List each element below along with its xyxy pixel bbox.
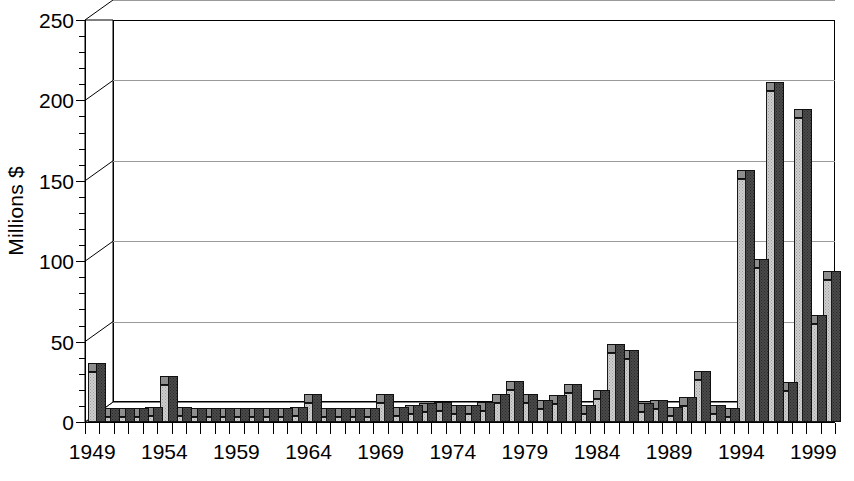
bar-column <box>794 109 803 422</box>
x-tick-mark <box>128 423 129 434</box>
bar-side-face <box>745 170 755 422</box>
bar-side-face <box>629 350 639 422</box>
bar-side-face <box>283 408 293 422</box>
bar-side-face <box>543 400 553 422</box>
bar-side-face <box>312 394 322 422</box>
x-tick-label: 1959 <box>213 440 260 464</box>
x-tick-mark <box>273 423 274 434</box>
bar-side-face <box>442 402 452 422</box>
x-tick-mark <box>330 423 331 434</box>
x-tick-mark <box>157 423 158 434</box>
x-tick-mark <box>114 423 115 434</box>
bar-side-face <box>759 259 769 422</box>
x-tick-mark <box>518 423 519 434</box>
bar-side-face <box>817 315 827 422</box>
x-tick-label: 1954 <box>141 440 188 464</box>
x-tick-mark <box>85 423 86 434</box>
bar-column <box>737 170 746 422</box>
bar-top-face <box>564 384 573 393</box>
x-tick-mark <box>200 423 201 434</box>
x-tick-mark <box>691 423 692 434</box>
x-tick-mark <box>705 423 706 434</box>
bar-top-face <box>737 170 746 179</box>
x-tick-mark <box>561 423 562 434</box>
x-tick-mark <box>99 423 100 434</box>
bar-side-face <box>802 109 812 422</box>
bar-side-face <box>125 408 135 422</box>
x-tick-mark <box>258 423 259 434</box>
bar-side-face <box>644 403 654 422</box>
bar-side-face <box>182 407 192 422</box>
bar-front-face <box>794 118 803 422</box>
bar-side-face <box>153 407 163 422</box>
bar-side-face <box>298 407 308 422</box>
x-tick-label: 1989 <box>646 440 693 464</box>
x-tick-mark <box>489 423 490 434</box>
bar-side-face <box>197 408 207 422</box>
x-tick-mark <box>720 423 721 434</box>
x-tick-mark <box>835 423 836 434</box>
x-tick-mark <box>532 423 533 434</box>
x-tick-mark <box>287 423 288 434</box>
x-tick-mark <box>345 423 346 434</box>
bar-side-face <box>110 408 120 422</box>
bar-side-face <box>600 390 610 422</box>
bar-side-face <box>615 344 625 422</box>
bar-side-face <box>139 408 149 422</box>
x-tick-mark <box>388 423 389 434</box>
x-tick-mark <box>373 423 374 434</box>
bar-side-face <box>831 271 841 422</box>
x-tick-mark <box>143 423 144 434</box>
bar-side-face <box>225 408 235 422</box>
bar-side-face <box>456 405 466 422</box>
bar-top-face <box>823 271 832 280</box>
x-tick-mark <box>821 423 822 434</box>
x-tick-mark <box>547 423 548 434</box>
bar-side-face <box>730 408 740 422</box>
bar-side-face <box>701 371 711 422</box>
x-tick-label: 1949 <box>69 440 116 464</box>
bar-side-face <box>471 405 481 422</box>
bar-side-face <box>413 405 423 422</box>
bar-top-face <box>376 394 385 403</box>
bar-side-face <box>370 408 380 422</box>
bar-top-face <box>304 394 313 403</box>
x-tick-mark <box>460 423 461 434</box>
bar-side-face <box>788 382 798 422</box>
x-tick-label: 1979 <box>502 440 549 464</box>
x-tick-mark <box>604 423 605 434</box>
bar-side-face <box>211 408 221 422</box>
x-tick-mark <box>474 423 475 434</box>
bar-chart: Millions $ 050100150200250 1949195419591… <box>0 0 854 481</box>
x-tick-label: 1974 <box>429 440 476 464</box>
x-tick-label: 1969 <box>357 440 404 464</box>
x-tick-mark <box>186 423 187 434</box>
bar-side-face <box>168 376 178 422</box>
bar-top-face <box>88 363 97 372</box>
x-tick-mark <box>590 423 591 434</box>
bar-top-face <box>679 397 688 406</box>
bar-side-face <box>500 394 510 422</box>
bar-side-face <box>254 408 264 422</box>
x-tick-mark <box>676 423 677 434</box>
bar-side-face <box>528 394 538 422</box>
x-tick-mark <box>229 423 230 434</box>
x-tick-mark <box>777 423 778 434</box>
bar-column <box>88 363 97 422</box>
bar-top-face <box>607 344 616 353</box>
x-tick-mark <box>748 423 749 434</box>
bar-front-face <box>737 179 746 422</box>
x-tick-mark <box>402 423 403 434</box>
bar-side-face <box>96 363 106 422</box>
x-tick-label: 1964 <box>285 440 332 464</box>
x-tick-label: 1999 <box>790 440 837 464</box>
x-tick-mark <box>575 423 576 434</box>
bar-top-face <box>593 390 602 399</box>
x-tick-mark <box>215 423 216 434</box>
x-tick-mark <box>633 423 634 434</box>
x-tick-mark <box>301 423 302 434</box>
x-tick-mark <box>417 423 418 434</box>
bar-side-face <box>240 408 250 422</box>
bar-side-face <box>716 405 726 422</box>
x-tick-mark <box>172 423 173 434</box>
